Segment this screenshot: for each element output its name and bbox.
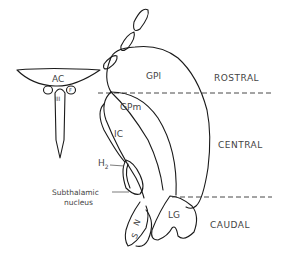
rostral-label: ROSTRAL	[214, 73, 259, 83]
gpl-label: GPl	[146, 71, 161, 81]
sn-n-label: N	[132, 218, 143, 227]
h2-label: H2	[98, 158, 109, 170]
left-fornix-shape	[44, 86, 53, 94]
gpm-label: GPm	[120, 102, 141, 112]
gpl-inner-left	[107, 60, 111, 92]
caudal-label: CAUDAL	[210, 220, 250, 230]
subthalamic-label-line2: nucleus	[64, 198, 93, 207]
subthalamic-label-line1: Subthalamic	[52, 188, 99, 197]
ic-label: IC	[114, 129, 123, 139]
top-bundle-1	[134, 9, 149, 30]
sn-inner-edge	[136, 210, 152, 246]
h2-leader	[110, 165, 124, 166]
lg-label: LG	[168, 210, 180, 220]
basal-ganglia-diagram: AC III F GPl GPm IC H2 Subthalamic nucle…	[0, 0, 284, 261]
third-ventricle-label: III	[55, 95, 61, 102]
ac-label: AC	[52, 74, 64, 84]
subthalamic-nucleus-shape	[123, 160, 143, 194]
fornix-label: F	[69, 87, 72, 93]
central-label: CENTRAL	[218, 140, 263, 150]
